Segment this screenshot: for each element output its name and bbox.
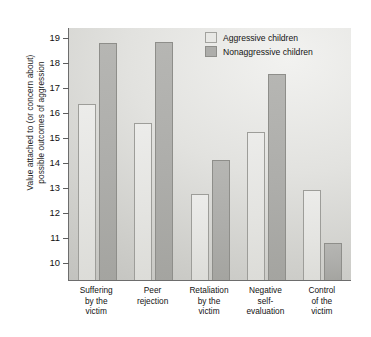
x-axis-label-1: Peer rejection	[124, 285, 180, 306]
y-tick-label: 14	[50, 157, 60, 168]
bar-nonaggressive-3	[268, 74, 286, 280]
bar-aggressive-2	[191, 194, 209, 280]
legend-swatch-icon-nonaggressive	[205, 46, 217, 57]
legend-item-nonaggressive: Nonaggressive children	[205, 45, 313, 58]
y-tick-label: 18	[50, 57, 60, 68]
bar-series-container	[69, 28, 351, 280]
legend-label-aggressive: Aggressive children	[223, 33, 298, 43]
x-axis-label-3: Negative self- evaluation	[237, 285, 293, 317]
bar-chart-figure: Value attached to (or concern about) pos…	[0, 0, 371, 337]
chart-legend: Aggressive children Nonaggressive childr…	[205, 31, 313, 59]
x-axis-label-4: Control of the victim	[294, 285, 350, 317]
y-tick-label: 11	[50, 232, 60, 243]
bar-aggressive-0	[78, 104, 96, 280]
bar-nonaggressive-0	[99, 43, 117, 280]
bar-aggressive-4	[303, 190, 321, 280]
x-axis-label-2: Retaliation by the victim	[181, 285, 237, 317]
y-axis-title: Value attached to (or concern about) pos…	[26, 15, 47, 230]
y-tick-label: 13	[50, 182, 60, 193]
bar-aggressive-3	[247, 132, 265, 280]
legend-item-aggressive: Aggressive children	[205, 31, 313, 44]
legend-swatch-icon-aggressive	[205, 32, 217, 43]
plot-area: 10111213141516171819	[68, 28, 351, 281]
y-tick-label: 17	[50, 82, 60, 93]
legend-label-nonaggressive: Nonaggressive children	[223, 47, 313, 57]
bar-aggressive-1	[134, 123, 152, 280]
y-tick-label: 10	[50, 257, 60, 268]
x-axis-label-0: Suffering by the victim	[68, 285, 124, 317]
x-axis-labels: Suffering by the victimPeer rejectionRet…	[68, 285, 350, 331]
y-tick-label: 16	[50, 107, 60, 118]
y-tick-label: 12	[50, 207, 60, 218]
bar-nonaggressive-4	[324, 243, 342, 280]
bar-nonaggressive-2	[212, 160, 230, 280]
y-tick-label: 19	[50, 32, 60, 43]
bar-nonaggressive-1	[155, 42, 173, 280]
y-tick-label: 15	[50, 132, 60, 143]
